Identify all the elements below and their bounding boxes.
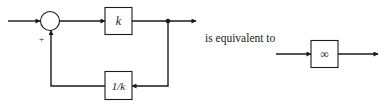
- summing-junction: [41, 12, 60, 31]
- diagram-svg: + k 1/k ∞: [0, 0, 384, 111]
- block-diagram: + k 1/k ∞ is equivalent to: [0, 0, 384, 111]
- feedback-path-left: [51, 31, 105, 87]
- equivalent-block-label: ∞: [320, 47, 329, 61]
- equivalence-text: is equivalent to: [205, 32, 275, 44]
- feedback-block-label: 1/k: [112, 80, 127, 92]
- feedback-path-right: [132, 21, 168, 86]
- forward-block-label: k: [116, 14, 122, 28]
- plus-sign: +: [39, 34, 44, 44]
